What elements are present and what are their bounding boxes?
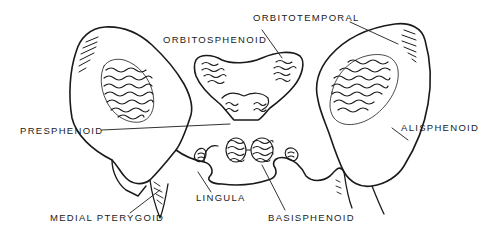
leader-basisphenoid <box>262 165 285 210</box>
sphenoid-body <box>176 146 344 185</box>
label-lingula: LINGULA <box>196 193 246 203</box>
left-wavy-oval <box>101 59 154 122</box>
left-wing-hatching <box>79 37 98 72</box>
basisphenoid-ovals <box>226 138 273 162</box>
orbitosphenoid-wavy <box>202 61 296 112</box>
label-alisphenoid: ALISPHENOID <box>401 123 479 133</box>
leader-presphenoid <box>102 124 230 130</box>
label-medial-pterygoid: MEDIAL PTERYGOID <box>50 213 164 223</box>
label-orbitotemporal: ORBITOTEMPORAL <box>253 13 360 23</box>
leader-lingula <box>198 172 211 192</box>
orbitosphenoid-piece <box>195 52 303 120</box>
label-presphenoid: PRESPHENOID <box>20 126 103 136</box>
sphenoid-diagram: ORBITOTEMPORAL ORBITOSPHENOID PRESPHENOI… <box>0 0 494 235</box>
right-wing-hatching <box>402 30 416 62</box>
leader-medial-pterygoid <box>130 190 160 213</box>
right-wing <box>317 24 431 214</box>
right-wavy-oval <box>330 55 398 125</box>
label-basisphenoid: BASISPHENOID <box>268 213 355 223</box>
label-orbitosphenoid: ORBITOSPHENOID <box>163 35 267 45</box>
